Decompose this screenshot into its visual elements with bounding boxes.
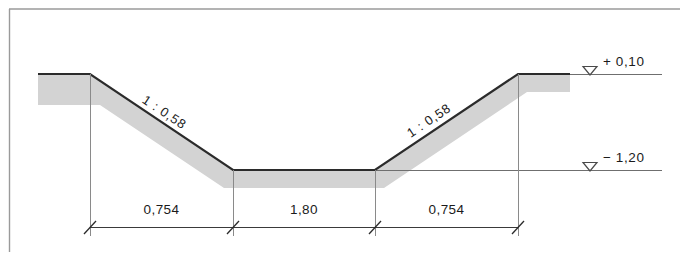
elevation-label-top: + 0,10 <box>603 54 645 69</box>
dimension-label-right-slope: 0,754 <box>375 202 518 217</box>
water-level-triangle-top <box>583 67 597 76</box>
drawing-canvas <box>0 0 689 257</box>
elevation-markers <box>583 67 597 172</box>
dimension-line <box>84 221 524 234</box>
dimension-label-left-slope: 0,754 <box>90 202 233 217</box>
channel-cross-section-drawing: + 0,10 − 1,20 1 : 0,58 1 : 0,58 0,754 1,… <box>0 0 689 257</box>
water-level-triangle-bottom <box>583 163 597 172</box>
channel-outline <box>38 74 570 170</box>
dimension-label-bottom-width: 1,80 <box>233 202 375 217</box>
elevation-label-bottom: − 1,20 <box>603 150 645 165</box>
